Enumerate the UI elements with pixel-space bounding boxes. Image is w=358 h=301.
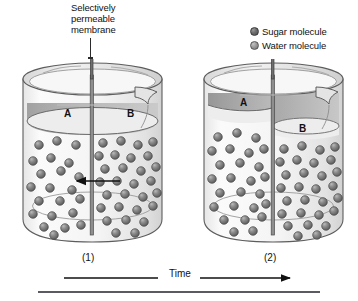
beaker-1: A B [17,59,168,245]
membrane-callout-label: Selectively permeable membrane [71,2,163,36]
legend-item-water: Water molecule [250,39,327,52]
sugar-molecule-dot-icon [250,27,259,36]
beaker-1-caption: (1) [82,252,94,263]
membrane-label-line-2: permeable [71,13,163,24]
legend: Sugar molecule Water molecule [250,25,327,53]
beaker-2-graphic [198,59,349,245]
osmosis-diagram: Selectively permeable membrane Sugar mol… [0,0,358,301]
bottom-divider [38,291,320,293]
beaker-1-compartment-b-label: B [127,108,134,119]
beaker-2: A B [198,59,349,245]
beaker-1-graphic [17,59,168,245]
beaker-2-compartment-a-label: A [240,97,247,108]
membrane-label-line-3: membrane [71,24,163,35]
time-axis: Time [62,270,296,282]
water-molecule-dot-icon [250,41,259,50]
membrane-label-line-1: Selectively [71,2,163,13]
beaker-1-compartment-a-label: A [64,108,71,119]
beaker-2-compartment-b-label: B [299,123,306,134]
legend-item-sugar: Sugar molecule [250,25,327,38]
callout-leader-line [90,38,91,59]
beaker-2-caption: (2) [264,252,276,263]
time-axis-label: Time [166,268,194,279]
legend-label-water: Water molecule [262,41,326,51]
legend-label-sugar: Sugar molecule [262,27,327,37]
